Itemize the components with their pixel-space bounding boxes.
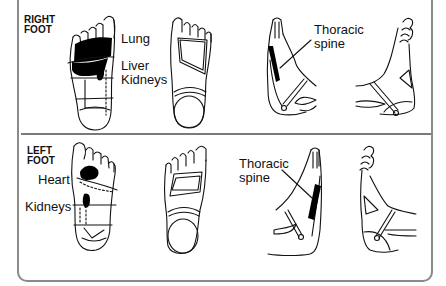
right-lateral-side-illustration xyxy=(356,18,415,115)
left-sole-outline-illustration xyxy=(165,146,207,253)
left-medial-side-illustration xyxy=(268,148,321,256)
right-sole-outline-illustration xyxy=(171,18,212,128)
right-medial-side-illustration xyxy=(267,18,316,115)
left-lateral-side-illustration xyxy=(360,146,416,252)
right-sole-zones-illustration xyxy=(68,16,115,130)
foot-illustrations xyxy=(0,0,446,286)
left-sole-zones-illustration xyxy=(72,143,117,251)
